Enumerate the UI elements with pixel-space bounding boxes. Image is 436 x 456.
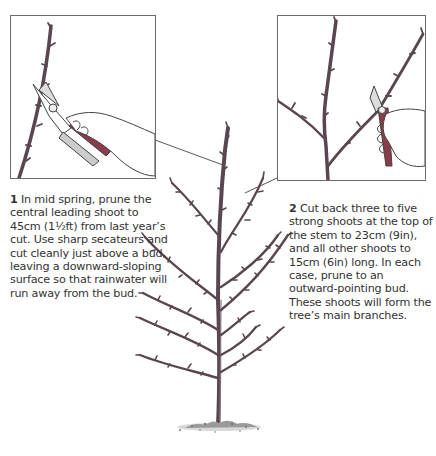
step-2-caption: 2 Cut back three to five strong shoots a… [289, 202, 434, 323]
secateurs-cutting-side-shoot-illustration [278, 16, 425, 180]
step-1-caption: 1 In mid spring, prune the central leadi… [10, 193, 170, 300]
step-2-text: Cut back three to five strong shoots at … [289, 202, 433, 322]
step-1-text: In mid spring, prune the central leading… [10, 193, 168, 300]
inset-cut-leader [10, 15, 156, 179]
inset-cut-side-shoots [277, 15, 426, 181]
hand-icon [66, 112, 155, 176]
step-2-number: 2 [289, 202, 297, 215]
callout-line-left [155, 140, 223, 165]
secateurs-cutting-leader-illustration [11, 16, 155, 178]
step-1-number: 1 [10, 193, 18, 206]
